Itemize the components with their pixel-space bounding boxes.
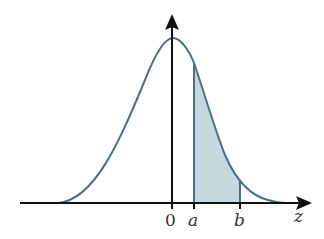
label-origin: 0: [165, 210, 176, 230]
label-b: b: [234, 210, 245, 230]
normal-distribution-figure: 0 a b z: [0, 0, 324, 239]
label-a: a: [188, 210, 198, 230]
label-z-axis: z: [293, 206, 304, 226]
